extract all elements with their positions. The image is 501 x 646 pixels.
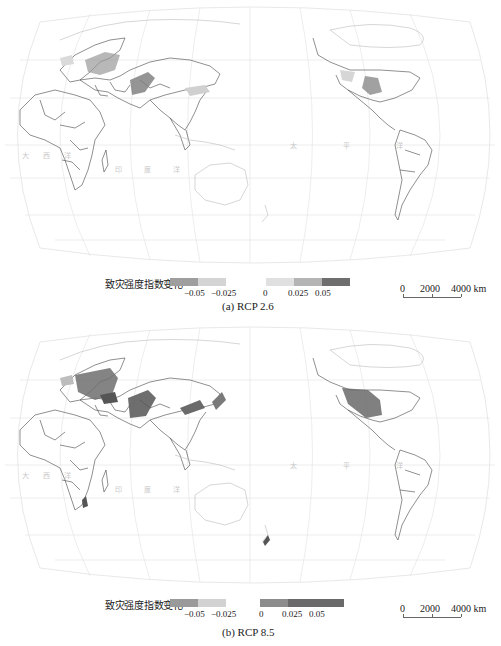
legend-rcp85: 致灾强度指数变化 −0.05 −0.025 0 0.025 0.05 [105,597,345,623]
map-panel-rcp26: 大 西 洋 印 度 洋 太 平 洋 致灾强度指数变化 −0.05 −0.025 … [0,0,501,320]
ocean-label-atlantic: 大 西 洋 [22,151,77,160]
africa-borders [20,410,108,510]
map-panel-rcp85: 大 西 洋 印 度 洋 太 平 洋 致灾强度指数变化 −0.05 −0.025 … [0,320,501,646]
legend-swatch-pos-005 [322,278,350,286]
ocean-label-pacific: 太 平 洋 [290,141,425,150]
graticule-meridians [60,7,440,263]
legend-tick: 0 [263,288,268,298]
legend-tick: 0.025 [288,288,308,298]
ocean-label-atlantic: 大 西 洋 [22,471,77,480]
caption-rcp26: (a) RCP 2.6 [222,300,274,312]
scale-bar-rcp85: 0 2000 4000 km [400,603,500,623]
legend-swatch-pos-0025 [288,599,316,607]
legend-swatch-neg-0025 [198,278,226,286]
africa-borders [20,90,108,190]
arctic-coastlines [60,340,423,368]
arctic-coastlines [60,20,423,48]
scale-tick [432,614,433,617]
legend-tick: −0.025 [211,288,236,298]
scale-label-0: 0 [400,283,405,294]
legend-swatch-pos-005 [316,599,344,607]
hazard-change-patches [60,52,382,96]
legend-tick: −0.05 [184,288,205,298]
world-map-rcp26: 大 西 洋 印 度 洋 太 平 洋 [0,0,501,270]
legend-tick: −0.05 [184,609,205,619]
scale-label-0: 0 [400,603,405,614]
scale-tick [403,294,404,297]
legend-swatch-pos-0 [260,599,288,607]
scale-label-4000: 4000 km [451,603,486,614]
caption-rcp85: (b) RCP 8.5 [222,626,274,638]
legend-tick: 0 [259,609,264,619]
scale-tick [432,294,433,297]
legend-swatch-neg-005 [170,599,198,607]
scale-bar-rcp26: 0 2000 4000 km [400,283,500,303]
scale-line [403,297,461,298]
ocean-label-indian: 印 度 洋 [115,165,190,174]
scale-tick [403,614,404,617]
legend-swatch-pos-0 [266,278,294,286]
scale-label-2000: 2000 [420,283,440,294]
legend-tick: −0.025 [211,609,236,619]
legend-swatch-pos-0025 [294,278,322,286]
ocean-label-pacific: 太 平 洋 [290,461,425,470]
legend-swatch-neg-005 [170,278,198,286]
legend-swatch-neg-0025 [198,599,226,607]
scale-label-2000: 2000 [420,603,440,614]
scale-tick [461,614,462,617]
hazard-change-patches [60,368,382,546]
legend-tick: 0.05 [309,609,325,619]
graticule-meridians [60,327,440,583]
legend-rcp26: 致灾强度指数变化 −0.05 −0.025 0 0.025 0.05 [105,276,345,302]
scale-tick [461,294,462,297]
ocean-label-indian: 印 度 洋 [115,485,190,494]
legend-tick: 0.05 [315,288,331,298]
scale-label-4000: 4000 km [451,283,486,294]
scale-line [403,617,461,618]
world-map-rcp85: 大 西 洋 印 度 洋 太 平 洋 [0,320,501,592]
legend-tick: 0.025 [282,609,302,619]
